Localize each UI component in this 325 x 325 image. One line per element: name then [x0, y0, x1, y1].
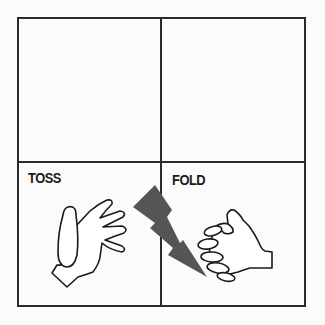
illustrations [0, 0, 325, 325]
lightning-bolt-icon [133, 185, 207, 277]
folded-fist-icon [197, 210, 272, 283]
open-hand-icon [52, 200, 126, 287]
